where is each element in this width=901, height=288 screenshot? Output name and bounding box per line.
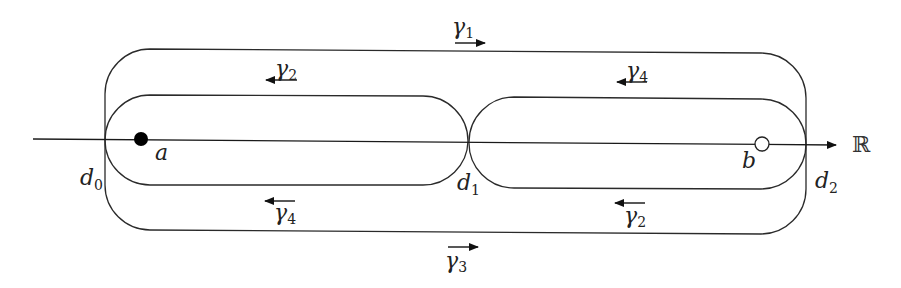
real-axis [33,139,836,145]
crossing-d0-label: d0 [80,165,103,193]
gamma3-label: γ3 [445,248,467,275]
gamma2-top-label: γ2 [275,56,297,83]
gamma4-top-label: γ4 [626,58,648,85]
crossing-d2-label: d2 [815,168,838,196]
point-a-label: a [155,140,168,165]
outer-contour [105,49,806,234]
gamma4-bottom-label: γ4 [274,200,296,227]
real-axis-label: ℝ [852,132,871,157]
point-a [134,132,148,146]
point-b [755,137,769,151]
contour-diagram: ℝ a b d0 d1 d2 γ1 γ3 γ2 γ4 γ4 γ2 [0,0,901,288]
point-b-label: b [742,148,756,173]
gamma1-label: γ1 [452,14,474,41]
gamma2-bottom-label: γ2 [624,203,646,230]
crossing-d1-label: d1 [457,170,480,198]
